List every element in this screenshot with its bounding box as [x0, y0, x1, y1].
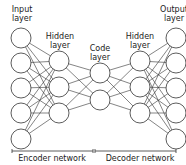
code-node — [90, 90, 110, 110]
code-layer-label: Code layer — [85, 44, 115, 62]
input-layer-label: Input layer — [6, 5, 38, 23]
hidden-decoder-node — [130, 103, 150, 123]
encoder-bracket — [12, 149, 93, 153]
output-node — [166, 28, 186, 48]
output-node — [166, 103, 186, 123]
hidden-encoder-node — [49, 77, 69, 97]
input-node — [11, 53, 31, 73]
output-node — [166, 129, 186, 149]
code-node — [90, 63, 110, 83]
output-node — [166, 78, 186, 98]
decoder-network-label: Decoder network — [98, 154, 182, 163]
hidden-encoder-node — [49, 103, 69, 123]
connection-edge — [21, 61, 59, 139]
output-node — [166, 53, 186, 73]
autoencoder-diagram: Input layer Hidden layer Code layer Hidd… — [0, 0, 186, 165]
hidden-decoder-node — [130, 51, 150, 71]
hidden-decoder-node — [130, 77, 150, 97]
network-graph — [0, 0, 186, 165]
input-node — [11, 129, 31, 149]
input-node — [11, 28, 31, 48]
hidden-encoder-layer-label: Hidden layer — [43, 32, 77, 50]
decoder-bracket — [95, 149, 176, 153]
hidden-encoder-node — [49, 51, 69, 71]
output-layer-label: Output layer — [156, 5, 186, 23]
input-node — [11, 78, 31, 98]
input-node — [11, 103, 31, 123]
encoder-network-label: Encoder network — [12, 154, 92, 163]
hidden-decoder-layer-label: Hidden layer — [123, 32, 157, 50]
